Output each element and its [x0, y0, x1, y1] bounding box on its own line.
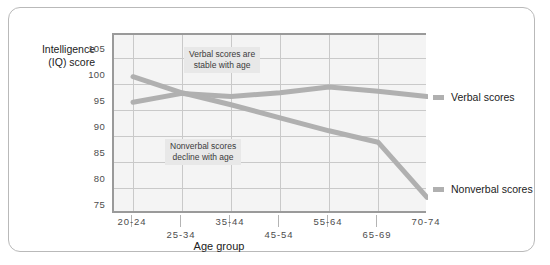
y-tick-label-80: 80	[65, 173, 105, 184]
x-tickmark-2	[180, 215, 181, 227]
annotation-nonverbal: Nonverbal scores decline with age	[165, 139, 241, 165]
y-tick-label-90: 90	[65, 121, 105, 132]
x-tick-label-25-34: 25-34	[138, 229, 224, 240]
x-tick-label-45-54: 45-54	[236, 229, 322, 240]
x-tickmark-6	[376, 215, 377, 227]
x-tickmark-4	[278, 215, 279, 227]
x-tick-label-55-64: 55-64	[285, 216, 371, 227]
legend-item-verbal[interactable]: Verbal scores	[433, 91, 515, 103]
legend-swatch-verbal-icon	[433, 95, 444, 100]
annotation-nonverbal-line1: Nonverbal scores	[170, 141, 236, 151]
annotation-nonverbal-line2: decline with age	[173, 152, 234, 162]
x-tick-label-65-69: 65-69	[334, 229, 420, 240]
annotation-verbal-line2: stable with age	[194, 60, 251, 70]
x-tick-label-70-74: 70-74	[383, 216, 469, 227]
y-tick-label-85: 85	[65, 147, 105, 158]
legend-item-nonverbal[interactable]: Nonverbal scores	[433, 183, 533, 195]
legend-label-nonverbal: Nonverbal scores	[451, 183, 533, 195]
series-lines	[114, 35, 428, 215]
y-tick-label-100: 100	[65, 69, 105, 80]
y-tick-label-75: 75	[65, 199, 105, 210]
x-tick-label-20-24: 20-24	[89, 216, 175, 227]
legend-swatch-nonverbal-icon	[433, 187, 444, 192]
annotation-verbal-line1: Verbal scores are	[189, 49, 255, 59]
y-tick-label-105: 105	[65, 43, 105, 54]
y-tick-label-95: 95	[65, 95, 105, 106]
annotation-verbal: Verbal scores are stable with age	[184, 47, 260, 73]
legend-label-verbal: Verbal scores	[451, 91, 515, 103]
plot-area: Verbal scores are stable with age Nonver…	[112, 33, 426, 213]
x-tick-label-35-44: 35-44	[187, 216, 273, 227]
chart-frame: Intelligence (IQ) score 105 100 95 90 85…	[8, 7, 535, 252]
y-axis-title-line2: (IQ) score	[48, 56, 95, 68]
x-axis-title: Age group	[9, 240, 429, 252]
